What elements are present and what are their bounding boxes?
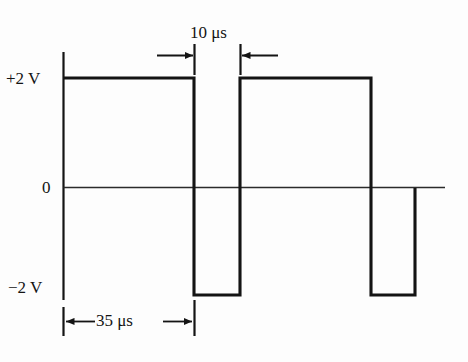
label-gap-duration: 10 μs [190, 24, 227, 41]
label-minus-2v: −2 V [8, 279, 42, 296]
label-plus-2v: +2 V [6, 70, 40, 87]
label-pulse-width: 35 μs [96, 312, 133, 329]
waveform-figure: +2 V 0 −2 V 10 μs 35 μs [0, 0, 468, 362]
label-zero: 0 [42, 179, 51, 196]
waveform-svg [0, 0, 468, 362]
waveform-trace [63, 78, 415, 295]
